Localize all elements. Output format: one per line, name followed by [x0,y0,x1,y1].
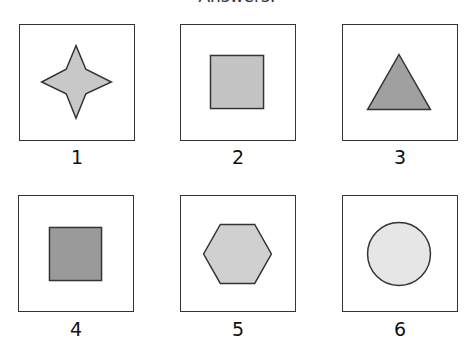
square-icon [19,196,133,311]
answer-label-1: 1 [19,146,135,168]
answer-option-3[interactable] [342,24,458,141]
answer-label-3: 3 [342,146,458,168]
hexagon-icon [181,196,295,311]
square-icon [181,25,295,140]
answers-title: Answers: [0,0,474,6]
triangle-icon [343,25,457,140]
answer-label-5: 5 [180,318,296,340]
answer-option-6[interactable] [342,195,458,312]
four-point-star-icon [20,25,134,140]
answer-option-4[interactable] [18,195,134,312]
circle-icon [343,196,457,311]
answer-label-4: 4 [18,318,134,340]
answer-option-1[interactable] [19,24,135,141]
answer-label-2: 2 [180,146,296,168]
answer-option-5[interactable] [180,195,296,312]
answer-option-2[interactable] [180,24,296,141]
answer-label-6: 6 [342,318,458,340]
